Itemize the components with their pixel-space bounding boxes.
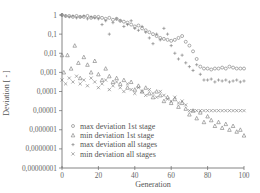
triangle-marker	[118, 82, 122, 86]
circle-marker	[192, 50, 195, 53]
cross-marker	[199, 109, 202, 112]
cross-marker	[217, 109, 220, 112]
y-tick-label: 0,00001	[33, 106, 57, 115]
cross-marker	[93, 80, 96, 83]
triangle-marker	[224, 122, 228, 126]
circle-marker	[206, 67, 209, 70]
triangle-marker	[206, 114, 210, 118]
cross-marker	[202, 109, 205, 112]
circle-marker	[202, 67, 205, 70]
x-tick-label: 0	[60, 171, 64, 180]
triangle-marker	[148, 92, 152, 96]
triangle-marker	[115, 76, 119, 80]
plus-marker	[191, 69, 194, 72]
x-tick-label: 40	[131, 171, 139, 180]
circle-marker	[195, 57, 198, 60]
triangle-marker	[86, 63, 90, 66]
cross-marker	[115, 80, 118, 83]
cross-marker	[144, 94, 147, 97]
cross-marker	[181, 99, 184, 102]
triangle-marker	[158, 93, 162, 97]
cross-marker	[111, 84, 114, 87]
circle-marker	[184, 40, 187, 43]
plus-marker	[221, 79, 224, 82]
plus-marker	[195, 63, 198, 66]
cross-marker	[71, 80, 74, 83]
cross-marker	[100, 82, 103, 85]
triangle-marker	[177, 105, 181, 109]
cross-marker	[166, 98, 169, 101]
triangle-marker	[111, 80, 115, 84]
triangle-marker	[213, 124, 217, 128]
cross-marker	[68, 77, 71, 80]
plus-marker	[228, 80, 231, 83]
y-tick-label: 0,000001	[29, 125, 57, 134]
cross-marker	[64, 82, 67, 85]
y-tick-label: 0,01	[44, 49, 57, 58]
plus-marker	[217, 78, 220, 81]
circle-marker	[101, 16, 104, 19]
triangle-marker	[104, 67, 108, 71]
circle-marker	[152, 33, 155, 36]
legend-item: max deviation all stages	[71, 140, 157, 149]
circle-marker	[235, 67, 238, 70]
legend-label: min deviation all stages	[80, 150, 156, 159]
legend-item: min deviation all stages	[71, 150, 155, 159]
triangle-marker	[89, 70, 93, 74]
cross-marker	[148, 88, 151, 91]
circle-marker	[170, 39, 173, 42]
plus-marker	[162, 27, 165, 30]
triangle-marker	[180, 101, 184, 105]
cross-marker	[82, 78, 85, 81]
circle-marker	[243, 67, 246, 70]
triangle-marker	[220, 126, 224, 130]
circle-marker	[166, 38, 169, 41]
cross-marker	[173, 96, 176, 99]
cross-marker	[130, 88, 133, 91]
triangle-marker	[202, 120, 206, 124]
triangle-marker	[78, 76, 82, 80]
triangle-marker	[231, 124, 235, 128]
plus-marker	[206, 78, 209, 81]
circle-marker	[224, 67, 227, 70]
plus-marker	[213, 80, 216, 83]
legend-label: min deviation 1st stage	[80, 131, 154, 140]
cross-marker	[221, 109, 224, 112]
plus-marker	[177, 57, 180, 60]
triangle-marker	[108, 74, 112, 78]
triangle-marker	[155, 90, 159, 94]
plus-marker	[224, 78, 227, 81]
plus-marker	[242, 79, 245, 82]
cross-marker	[206, 109, 209, 112]
plus-marker	[100, 23, 103, 26]
cross-marker	[137, 86, 140, 89]
y-tick-label: 0,0001	[37, 87, 58, 96]
circle-marker	[239, 67, 242, 70]
triangle-marker	[169, 101, 173, 105]
cross-marker	[133, 92, 136, 95]
cross-marker	[97, 86, 100, 89]
series-plus	[60, 13, 245, 83]
plus-marker	[166, 33, 169, 36]
plus-marker	[90, 15, 93, 18]
y-tick-label: 0,1	[48, 30, 58, 39]
triangle-marker	[77, 61, 81, 65]
cross-marker	[159, 90, 162, 93]
plus-marker	[86, 17, 89, 20]
circle-marker	[221, 66, 224, 69]
cross-marker	[86, 84, 89, 87]
cross-marker	[155, 96, 158, 99]
x-tick-label: 60	[168, 171, 176, 180]
circle-marker	[162, 37, 165, 40]
circle-marker	[177, 36, 180, 39]
plus-marker	[231, 79, 234, 82]
triangle-marker	[195, 116, 199, 120]
y-tick-label: 0,001	[40, 68, 57, 77]
circle-marker	[122, 20, 125, 23]
triangle-marker	[184, 107, 188, 111]
plus-marker	[210, 77, 213, 80]
circle-marker	[148, 31, 151, 34]
cross-marker	[79, 82, 82, 85]
triangle-marker	[217, 120, 221, 124]
triangle-marker	[239, 128, 243, 132]
